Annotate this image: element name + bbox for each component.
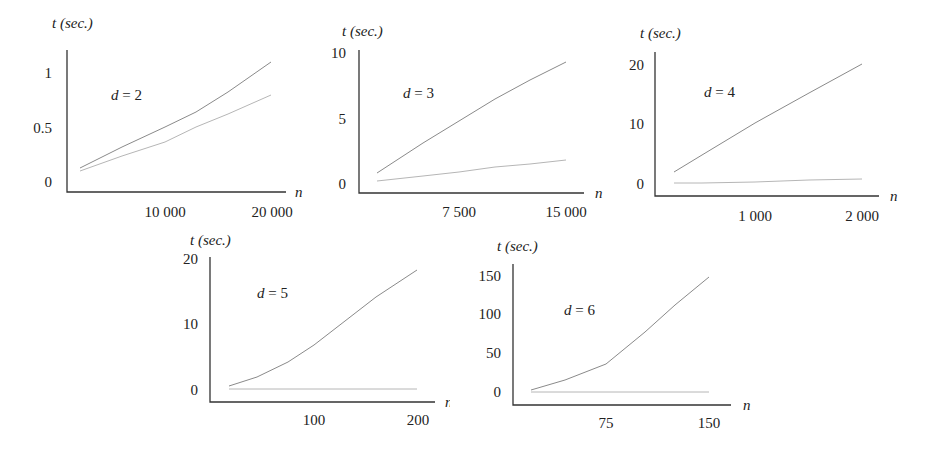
y-tick-label: 0 — [494, 384, 502, 400]
x-tick-label: 150 — [698, 415, 721, 431]
y-tick-label: 0 — [45, 174, 53, 190]
series-upper — [80, 62, 271, 168]
axes — [513, 264, 731, 405]
plot-annotation: d = 5 — [257, 285, 288, 301]
series-lower — [377, 160, 566, 181]
y-tick-label: 5 — [339, 111, 347, 127]
x-tick-label: 2 000 — [845, 208, 879, 224]
plot-d6: t (sec.) n 150 100 50 0 75 150 d = 6 — [460, 225, 760, 456]
plot-annotation: d = 6 — [564, 302, 595, 318]
plot-d3: t (sec.) n 10 5 0 7 500 15 000 d = 3 — [310, 0, 620, 225]
y-tick-label: 20 — [629, 57, 644, 73]
x-axis-label: n — [890, 188, 898, 204]
x-axis-label: n — [295, 184, 303, 200]
x-tick-label: 75 — [599, 415, 614, 431]
plot-d5: t (sec.) n 20 10 0 100 200 d = 5 — [150, 225, 450, 456]
y-tick-label: 10 — [183, 316, 198, 332]
y-tick-label: 100 — [479, 306, 502, 322]
plot-annotation: d = 3 — [403, 85, 434, 101]
series-lower — [80, 95, 271, 171]
series-upper — [531, 277, 709, 390]
plot-d4: t (sec.) n 20 10 0 1 000 2 000 d = 4 — [620, 0, 934, 225]
axes — [359, 50, 584, 193]
series-upper — [377, 62, 566, 173]
x-axis-label: n — [595, 185, 603, 201]
y-axis-label: t (sec.) — [190, 232, 231, 249]
x-tick-label: 1 000 — [738, 208, 772, 224]
plot-annotation: d = 2 — [111, 87, 142, 103]
x-tick-label: 20 000 — [251, 204, 292, 220]
y-axis-label: t (sec.) — [497, 238, 538, 255]
y-axis-label: t (sec.) — [342, 23, 383, 40]
y-axis-label: t (sec.) — [640, 25, 681, 42]
x-tick-label: 200 — [407, 412, 430, 428]
series-upper — [674, 64, 862, 172]
y-tick-label: 0.5 — [33, 120, 52, 136]
plot-d2: t (sec.) n 1 0.5 0 10 000 20 000 d = 2 — [0, 0, 310, 225]
series-lower — [674, 179, 862, 183]
y-tick-label: 10 — [629, 116, 644, 132]
y-tick-label: 50 — [486, 345, 501, 361]
x-tick-label: 7 500 — [442, 204, 476, 220]
y-tick-label: 0 — [339, 176, 347, 192]
y-axis-label: t (sec.) — [52, 15, 93, 32]
y-tick-label: 150 — [479, 268, 502, 284]
x-axis-label: n — [445, 394, 450, 410]
axes — [210, 257, 435, 402]
x-axis-label: n — [743, 397, 751, 413]
y-tick-label: 1 — [45, 65, 53, 81]
y-tick-label: 0 — [191, 382, 199, 398]
y-tick-label: 10 — [331, 45, 346, 61]
x-tick-label: 15 000 — [545, 204, 586, 220]
plot-annotation: d = 4 — [704, 84, 735, 100]
y-tick-label: 0 — [637, 176, 645, 192]
x-tick-label: 10 000 — [144, 204, 185, 220]
x-tick-label: 100 — [303, 412, 326, 428]
y-tick-label: 20 — [183, 251, 198, 267]
